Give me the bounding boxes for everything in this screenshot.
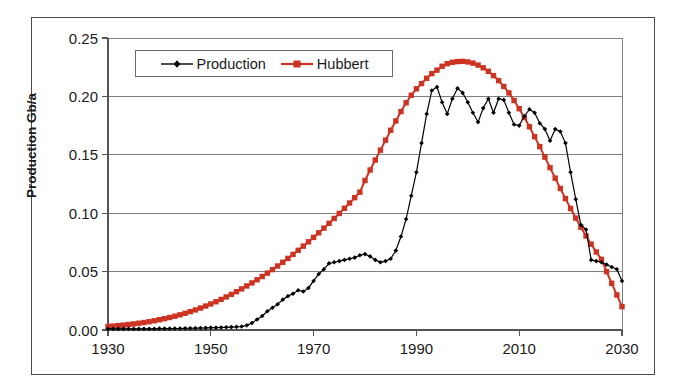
series-hubbert-marker xyxy=(352,195,357,200)
series-hubbert-marker xyxy=(558,186,563,191)
y-tick-label: 0.10 xyxy=(69,205,98,222)
series-production-marker xyxy=(244,323,249,328)
legend-label-hubbert: Hubbert xyxy=(317,56,369,72)
series-hubbert-marker xyxy=(306,239,311,244)
series-production-marker xyxy=(209,325,214,330)
series-hubbert-marker xyxy=(265,270,270,275)
series-hubbert-marker xyxy=(295,248,300,253)
series-hubbert-marker xyxy=(357,189,362,194)
data-series-group xyxy=(105,59,624,331)
series-hubbert-marker xyxy=(301,243,306,248)
legend-entry-production: Production xyxy=(160,56,266,72)
series-production-marker xyxy=(609,265,614,270)
series-hubbert-marker xyxy=(203,303,208,308)
series-production-marker xyxy=(476,120,481,125)
series-hubbert-marker xyxy=(131,321,136,326)
series-hubbert-marker xyxy=(475,62,480,67)
series-hubbert-marker xyxy=(316,230,321,235)
series-hubbert-marker xyxy=(419,81,424,86)
series-hubbert-marker xyxy=(239,286,244,291)
series-production-marker xyxy=(363,252,368,257)
series-production-marker xyxy=(347,256,352,261)
series-hubbert-marker xyxy=(511,98,516,103)
y-tick-labels-group: 0.000.050.100.150.200.25 xyxy=(69,30,98,339)
series-hubbert-marker xyxy=(537,144,542,149)
series-hubbert-marker xyxy=(424,76,429,81)
series-production-marker xyxy=(383,259,388,264)
series-production-marker xyxy=(573,197,578,202)
series-production-marker xyxy=(481,106,486,111)
series-production-marker xyxy=(219,325,224,330)
series-production-marker xyxy=(501,98,506,103)
series-hubbert-marker xyxy=(532,134,537,139)
x-tick-label: 2030 xyxy=(605,340,638,357)
series-hubbert-marker xyxy=(455,59,460,64)
series-production-marker xyxy=(409,193,414,198)
series-hubbert-marker xyxy=(552,175,557,180)
series-hubbert-marker xyxy=(182,311,187,316)
series-hubbert-marker xyxy=(383,138,388,143)
x-tick-labels-group: 193019501970199020102030 xyxy=(91,340,638,357)
series-hubbert-marker xyxy=(527,124,532,129)
series-hubbert-marker xyxy=(547,165,552,170)
series-production-marker xyxy=(214,325,219,330)
series-hubbert-marker xyxy=(414,86,419,91)
series-hubbert-marker xyxy=(501,84,506,89)
series-hubbert-marker xyxy=(398,109,403,114)
series-hubbert-marker xyxy=(337,211,342,216)
series-production xyxy=(106,85,625,331)
series-hubbert-marker xyxy=(465,59,470,64)
series-hubbert xyxy=(105,59,624,330)
series-hubbert-marker xyxy=(491,73,496,78)
series-hubbert-marker xyxy=(260,274,265,279)
series-hubbert-marker xyxy=(388,128,393,133)
x-tick-label: 1950 xyxy=(194,340,227,357)
series-hubbert-marker xyxy=(362,178,367,183)
series-hubbert-marker xyxy=(126,322,131,327)
y-tick-label: 0.20 xyxy=(69,88,98,105)
series-hubbert-marker xyxy=(326,221,331,226)
series-hubbert-marker xyxy=(198,305,203,310)
series-production-marker xyxy=(553,127,558,132)
series-production-marker xyxy=(229,325,234,330)
series-production-marker xyxy=(224,325,229,330)
series-hubbert-marker xyxy=(311,235,316,240)
series-hubbert-marker xyxy=(172,314,177,319)
series-production-marker xyxy=(517,123,522,128)
series-hubbert-marker xyxy=(177,312,182,317)
y-tick-label: 0.15 xyxy=(69,146,98,163)
series-hubbert-marker xyxy=(429,71,434,76)
series-hubbert-marker xyxy=(604,269,609,274)
series-hubbert-marker xyxy=(162,316,167,321)
series-production-marker xyxy=(378,260,383,265)
series-hubbert-marker xyxy=(393,118,398,123)
series-hubbert-marker xyxy=(347,200,352,205)
series-hubbert-marker xyxy=(285,256,290,261)
chart-figure: Production Gb/a 0.000.050.100.150.200.25… xyxy=(0,0,680,387)
series-hubbert-marker xyxy=(224,294,229,299)
series-hubbert-marker xyxy=(249,280,254,285)
series-hubbert-marker xyxy=(460,59,465,64)
series-hubbert-marker xyxy=(619,304,624,309)
series-hubbert-marker xyxy=(594,249,599,254)
series-hubbert-marker xyxy=(486,69,491,74)
series-hubbert-marker xyxy=(152,318,157,323)
x-tick-label: 2010 xyxy=(503,340,536,357)
series-hubbert-marker xyxy=(434,67,439,72)
series-hubbert-marker xyxy=(234,289,239,294)
legend-label-production: Production xyxy=(197,56,266,72)
series-hubbert-marker xyxy=(373,157,378,162)
series-production-marker xyxy=(414,170,419,175)
series-production-marker xyxy=(332,260,337,265)
series-hubbert-marker xyxy=(342,206,347,211)
series-production-marker xyxy=(352,255,357,260)
series-hubbert-marker xyxy=(506,90,511,95)
series-production-marker xyxy=(342,258,347,263)
series-production-marker xyxy=(337,259,342,264)
legend-marker-hubbert-icon xyxy=(280,57,314,71)
series-hubbert-marker xyxy=(496,78,501,83)
series-production-marker xyxy=(620,279,625,284)
series-production-marker xyxy=(450,96,455,101)
series-production-marker xyxy=(594,259,599,264)
series-production-marker xyxy=(234,325,239,330)
